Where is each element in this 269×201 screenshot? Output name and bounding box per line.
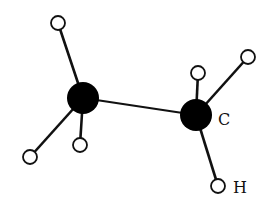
bond-c1-c2 [83,98,196,115]
hydrogen-atom [73,138,87,152]
hydrogen-atom [23,150,37,164]
hydrogen-atom [211,179,225,193]
atom-label-c: C [218,110,230,129]
hydrogen-atom [191,66,205,80]
atom-label-h: H [233,178,247,197]
ethane-molecule: CH [0,0,269,201]
carbon-atom [180,99,212,131]
carbon-atom [67,82,99,114]
hydrogen-atom [241,50,255,64]
molecule-diagram: CH [0,0,269,201]
hydrogen-atom [51,16,65,30]
